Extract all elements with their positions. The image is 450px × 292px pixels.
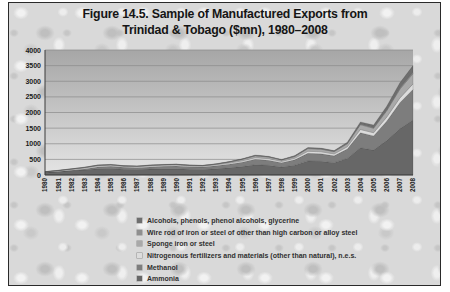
x-tick-label: 1986 bbox=[120, 178, 127, 193]
y-tick-label: 3000 bbox=[25, 78, 41, 85]
x-tick-label: 1994 bbox=[225, 178, 232, 193]
x-tick-label: 1999 bbox=[291, 178, 298, 193]
legend-label: Wire rod of iron or steel of other than … bbox=[147, 229, 357, 236]
legend-label: Nitrogenous fertilizers and materials (o… bbox=[147, 252, 356, 259]
x-tick-label: 2005 bbox=[370, 178, 377, 193]
x-tick-label: 2001 bbox=[317, 178, 324, 193]
legend-swatch-icon bbox=[137, 265, 142, 270]
legend-swatch-icon bbox=[137, 218, 142, 223]
y-tick-label: 3500 bbox=[25, 62, 41, 69]
x-tick-label: 1997 bbox=[265, 178, 272, 193]
x-tick-label: 1983 bbox=[81, 178, 88, 193]
x-tick-label: 2006 bbox=[383, 178, 390, 193]
x-tick-label: 1989 bbox=[160, 178, 167, 193]
x-tick-label: 1982 bbox=[68, 178, 75, 193]
x-tick-label: 2000 bbox=[304, 178, 311, 193]
legend-item: Alcohols, phenols, phenol alcohols, glyc… bbox=[137, 215, 357, 227]
legend-item: Ammonia bbox=[137, 273, 357, 285]
legend-label: Sponge iron or steel bbox=[147, 240, 215, 247]
x-tick-label: 2004 bbox=[357, 178, 364, 193]
x-tick-label: 1988 bbox=[147, 178, 154, 193]
scanned-figure-page: Figure 14.5. Sample of Manufactured Expo… bbox=[0, 0, 450, 292]
legend-item: Methanol bbox=[137, 261, 357, 273]
x-tick-label: 1990 bbox=[173, 178, 180, 193]
legend-label: Ammonia bbox=[147, 275, 179, 282]
legend-swatch-icon bbox=[137, 276, 142, 281]
x-tick-label: 1996 bbox=[252, 178, 259, 193]
y-tick-label: 2500 bbox=[25, 93, 41, 100]
x-tick-label: 1985 bbox=[107, 178, 114, 193]
legend-item: Sponge iron or steel bbox=[137, 238, 357, 250]
legend-swatch-icon bbox=[137, 241, 142, 246]
legend-label: Methanol bbox=[147, 264, 178, 271]
x-tick-label: 2003 bbox=[344, 178, 351, 193]
y-tick-label: 0 bbox=[37, 172, 41, 179]
x-tick-label: 1998 bbox=[278, 178, 285, 193]
y-tick-label: 500 bbox=[29, 156, 41, 163]
legend-item: Nitrogenous fertilizers and materials (o… bbox=[137, 250, 357, 262]
x-tick-label: 1984 bbox=[94, 178, 101, 193]
x-tick-label: 2002 bbox=[331, 178, 338, 193]
x-tick-label: 2007 bbox=[396, 178, 403, 193]
x-tick-label: 1980 bbox=[41, 178, 48, 193]
y-tick-label: 1500 bbox=[25, 125, 41, 132]
x-tick-label: 1987 bbox=[133, 178, 140, 193]
x-tick-label: 1992 bbox=[199, 178, 206, 193]
x-tick-label: 2008 bbox=[409, 178, 416, 193]
y-tick-label: 1000 bbox=[25, 140, 41, 147]
legend-swatch-icon bbox=[137, 253, 142, 258]
x-tick-label: 1981 bbox=[55, 178, 62, 193]
legend-label: Alcohols, phenols, phenol alcohols, glyc… bbox=[147, 217, 299, 224]
legend-swatch-icon bbox=[137, 230, 142, 235]
y-tick-label: 4000 bbox=[25, 47, 41, 54]
y-tick-label: 2000 bbox=[25, 109, 41, 116]
x-tick-label: 1993 bbox=[212, 178, 219, 193]
x-tick-label: 1991 bbox=[186, 178, 193, 193]
legend-item: Wire rod of iron or steel of other than … bbox=[137, 227, 357, 239]
x-tick-label: 1995 bbox=[239, 178, 246, 193]
chart-legend: Alcohols, phenols, phenol alcohols, glyc… bbox=[137, 215, 357, 285]
